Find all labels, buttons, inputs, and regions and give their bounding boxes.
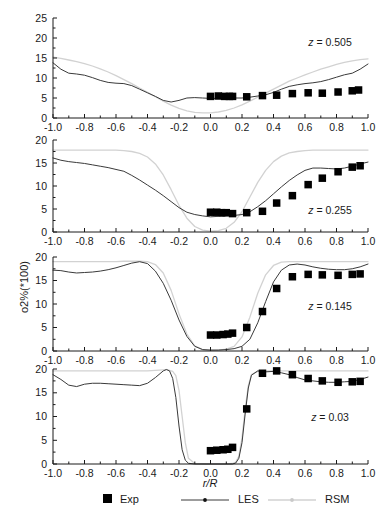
x-tick-label: -1.0	[44, 121, 62, 133]
x-tick-label: 0.0	[203, 121, 218, 133]
exp-data-point	[273, 285, 281, 293]
panel-2: 05101520-1.0-0.8-0.6-0.4-0.20.00.20.40.6…	[35, 134, 375, 247]
y-tick-label: 5	[41, 203, 47, 215]
y-tick-label: 10	[35, 410, 47, 422]
exp-data-point	[355, 86, 363, 94]
exp-data-point	[304, 271, 312, 279]
legend-label-les: LES	[238, 493, 259, 505]
exp-data-point	[289, 371, 297, 379]
x-tick-label: -0.4	[138, 354, 156, 366]
x-tick-label: -0.2	[170, 235, 188, 247]
x-tick-label: 0.8	[329, 121, 344, 133]
x-tick-label: 0.4	[266, 121, 281, 133]
exp-data-point	[243, 324, 251, 332]
x-tick-label: 0.4	[266, 235, 281, 247]
exp-data-point	[319, 174, 327, 182]
x-tick-label: 0.0	[203, 235, 218, 247]
y-tick-label: 15	[35, 157, 47, 169]
y-tick-label: 10	[35, 72, 47, 84]
y-tick-label: 20	[35, 251, 47, 263]
x-tick-label: 0.6	[298, 354, 313, 366]
y-tick-label: 15	[35, 274, 47, 286]
x-tick-label: 1.0	[361, 354, 376, 366]
y-tick-label: 10	[35, 298, 47, 310]
legend-marker-rsm	[290, 498, 294, 502]
y-tick-label: 25	[35, 12, 47, 24]
exp-data-point	[319, 271, 327, 279]
annotation-value: = 0.03	[316, 411, 349, 423]
x-tick-label: 0.0	[203, 354, 218, 366]
x-axis-title: r/R	[203, 477, 218, 489]
annotation-value: = 0.255	[314, 204, 352, 216]
x-tick-label: 0.2	[235, 121, 250, 133]
exp-data-point	[259, 308, 267, 316]
exp-data-point	[356, 378, 364, 386]
x-tick-label: -0.2	[170, 121, 188, 133]
legend-marker-les	[203, 498, 207, 502]
y-axis-label-wrap: o2%(*100)	[2, 195, 20, 315]
figure-container: o2%(*100) 0510152025-1.0-0.8-0.6-0.4-0.2…	[0, 0, 388, 510]
y-tick-label: 5	[41, 321, 47, 333]
x-tick-label: -1.0	[44, 235, 62, 247]
exp-data-point	[334, 88, 342, 96]
panel-annotation: z = 0.505	[307, 36, 352, 48]
exp-data-point	[304, 89, 312, 97]
panel-4: 05101520-1.0-0.8-0.6-0.4-0.20.00.20.40.6…	[35, 363, 375, 479]
x-tick-label: 0.8	[329, 467, 344, 479]
curve-rsm	[53, 57, 368, 113]
y-tick-label: 5	[41, 434, 47, 446]
annotation-value: = 0.145	[314, 300, 352, 312]
exp-data-point	[207, 93, 215, 101]
exp-data-point	[334, 379, 342, 387]
curve-rsm	[53, 150, 368, 231]
exp-data-point	[334, 168, 342, 176]
x-tick-label: 0.8	[329, 235, 344, 247]
exp-data-point	[273, 199, 281, 207]
y-tick-label: 15	[35, 386, 47, 398]
panel-annotation: z = 0.03	[310, 411, 349, 423]
x-tick-label: 0.4	[266, 354, 281, 366]
exp-data-point	[304, 375, 312, 383]
exp-data-point	[319, 89, 327, 97]
exp-data-point	[273, 367, 281, 375]
panel-annotation: z = 0.145	[307, 300, 352, 312]
exp-data-point	[243, 209, 251, 217]
exp-data-point	[334, 272, 342, 280]
exp-data-point	[229, 93, 237, 101]
y-axis-label: o2%(*100)	[18, 261, 30, 313]
x-tick-label: -0.8	[75, 235, 93, 247]
x-tick-label: -0.6	[107, 354, 125, 366]
x-tick-label: -0.2	[170, 354, 188, 366]
exp-data-point	[259, 370, 267, 378]
x-tick-label: -0.6	[107, 121, 125, 133]
x-tick-label: -0.6	[107, 235, 125, 247]
x-tick-label: -0.2	[170, 467, 188, 479]
x-tick-label: -0.4	[138, 121, 156, 133]
x-tick-label: -0.8	[75, 354, 93, 366]
x-tick-label: 1.0	[361, 235, 376, 247]
x-tick-label: 0.2	[235, 354, 250, 366]
exp-data-point	[349, 378, 357, 386]
y-tick-label: 20	[35, 134, 47, 146]
exp-data-point	[229, 444, 237, 452]
x-tick-label: -0.4	[138, 235, 156, 247]
exp-data-point	[356, 270, 364, 278]
exp-data-point	[243, 405, 251, 413]
exp-data-point	[243, 93, 251, 101]
exp-data-point	[356, 162, 364, 170]
exp-data-point	[289, 90, 297, 98]
legend-marker-exp	[103, 494, 112, 503]
x-tick-label: -0.8	[75, 467, 93, 479]
y-tick-label: 20	[35, 32, 47, 44]
panel-3: 05101520-1.0-0.8-0.6-0.4-0.20.00.20.40.6…	[35, 251, 375, 366]
exp-data-point	[229, 210, 237, 218]
annotation-value: = 0.505	[314, 36, 352, 48]
y-tick-label: 10	[35, 180, 47, 192]
x-tick-label: 0.2	[235, 467, 250, 479]
x-tick-label: 0.6	[298, 235, 313, 247]
legend-label-exp: Exp	[120, 493, 139, 505]
y-tick-label: 5	[41, 92, 47, 104]
legend: ExpLESRSM	[103, 493, 349, 505]
exp-data-point	[289, 273, 297, 281]
x-tick-label: 1.0	[361, 467, 376, 479]
